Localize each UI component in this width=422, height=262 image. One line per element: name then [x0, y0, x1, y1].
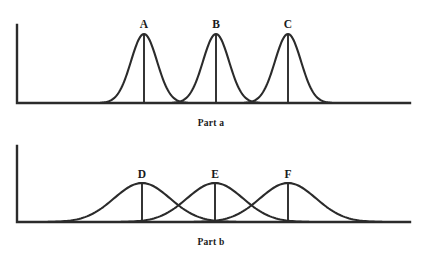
caption-part-a: Part a [0, 118, 422, 128]
axis-part-b [17, 146, 410, 222]
figure-root: A B C Part a D E F Part b [0, 0, 422, 262]
curve-e [121, 183, 309, 222]
curve-label-d: D [138, 168, 146, 180]
curve-label-c: C [284, 18, 292, 30]
caption-part-b: Part b [0, 237, 422, 247]
curve-label-e: E [211, 168, 219, 180]
curve-d [48, 183, 236, 222]
curve-f [194, 183, 382, 222]
curve-label-b: B [212, 18, 220, 30]
curve-label-a: A [140, 18, 149, 30]
chart-part-a: A B C [0, 0, 422, 118]
curve-label-f: F [284, 168, 291, 180]
